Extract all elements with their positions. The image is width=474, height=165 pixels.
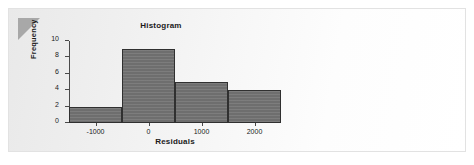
y-axis-tick-label: 8 (55, 51, 59, 58)
y-axis-tick: 8 (65, 56, 69, 57)
y-axis-tick-label: 2 (55, 101, 59, 108)
y-axis-tick: 6 (65, 73, 69, 74)
page-root: Histogram Frequency 0246810 -10000100020… (0, 0, 474, 165)
x-axis-tick-label: 0 (147, 128, 151, 135)
y-axis-tick: 10 (65, 40, 69, 41)
plot-area: 0246810 -1000010002000 (69, 41, 281, 123)
y-axis-tick-label: 10 (51, 35, 59, 42)
x-axis-tick-label: 2000 (247, 128, 263, 135)
x-axis-tick: 1000 (202, 123, 203, 126)
histogram-bar (122, 49, 175, 123)
x-axis-tick: 0 (149, 123, 150, 126)
y-axis-label: Frequency (29, 19, 38, 59)
x-axis-tick: 2000 (255, 123, 256, 126)
y-axis-tick-label: 6 (55, 68, 59, 75)
y-axis-tick-label: 4 (55, 84, 59, 91)
x-axis-label: Residuals (69, 137, 281, 146)
x-axis-tick: -1000 (96, 123, 97, 126)
scanned-page-card: Histogram Frequency 0246810 -10000100020… (8, 8, 466, 152)
histogram-bar (228, 90, 281, 123)
y-axis-tick-label: 0 (55, 117, 59, 124)
histogram-bar (69, 107, 122, 123)
y-axis-tick: 4 (65, 89, 69, 90)
x-axis-tick-label: -1000 (87, 128, 105, 135)
x-axis-tick-label: 1000 (194, 128, 210, 135)
histogram-figure: Histogram Frequency 0246810 -10000100020… (31, 15, 311, 151)
histogram-bar (175, 82, 228, 123)
chart-title: Histogram (31, 21, 291, 30)
